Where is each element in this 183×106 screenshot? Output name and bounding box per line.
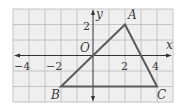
x-tick-neg4: −4 xyxy=(14,60,30,73)
vertex-c-label: C xyxy=(157,88,166,102)
vertex-b-label: B xyxy=(50,88,60,102)
y-tick-2: 2 xyxy=(83,20,90,33)
vertex-a-label: A xyxy=(127,8,137,22)
origin-label: O xyxy=(80,41,90,55)
x-tick-4: 4 xyxy=(152,60,159,73)
x-tick-2: 2 xyxy=(121,60,128,73)
x-tick-neg2: −2 xyxy=(46,60,62,73)
y-axis-label: y xyxy=(95,7,103,21)
coordinate-plane: x y O −4 −2 2 4 2 A B C xyxy=(0,0,183,106)
x-axis-label: x xyxy=(166,38,173,52)
